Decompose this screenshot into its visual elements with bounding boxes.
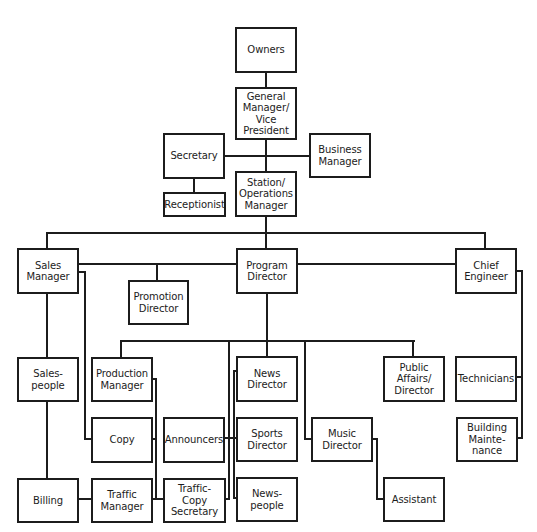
connector-sales-copy-v (84, 271, 86, 440)
node-station-operations-manager: Station/ Operations Manager (235, 171, 297, 217)
connector-lower-bus (120, 340, 415, 342)
node-news-director: News Director (236, 356, 298, 402)
connector-production-traffic (152, 498, 163, 500)
node-secretary: Secretary (163, 133, 225, 179)
connector-sales-salespeople (46, 293, 48, 357)
connector-news-newspeople (233, 370, 235, 498)
connector-chief-technicians (517, 376, 523, 378)
connector-program-bus (266, 293, 268, 356)
connector-bus-chief (484, 232, 486, 248)
node-copy: Copy (91, 417, 153, 463)
connector-salespeople-billing (46, 401, 48, 478)
connector-secretary-business (224, 155, 309, 157)
connector-bus-traffic-copy (228, 340, 230, 500)
connector-music-assistant-h (376, 498, 383, 500)
node-sports-director: Sports Director (236, 417, 298, 462)
node-building-maintenance: Building Mainte- nance (456, 417, 518, 462)
org-chart: Owners General Manager/ Vice President S… (0, 0, 537, 532)
connector-bus-production (120, 340, 122, 357)
node-general-manager: General Manager/ Vice President (235, 87, 297, 140)
connector-secretary-receptionist (193, 178, 195, 192)
connector-bus-public-affairs (412, 340, 414, 356)
node-sales-manager: Sales Manager (17, 248, 79, 294)
connector-program-chief (297, 263, 455, 265)
connector-top-bus (46, 232, 486, 234)
connector-billing-traffic (78, 498, 91, 500)
connector-owners-gm (265, 72, 267, 87)
connector-music-h (304, 438, 311, 440)
node-music-director: Music Director (311, 417, 373, 462)
node-assistant: Assistant (383, 477, 445, 522)
node-promotion-director: Promotion Director (128, 280, 189, 325)
node-chief-engineer: Chief Engineer (455, 248, 517, 294)
connector-sales-copy-h (84, 438, 91, 440)
connector-music-assistant-v (376, 438, 378, 500)
node-owners: Owners (235, 27, 297, 73)
node-traffic-manager: Traffic Manager (91, 478, 153, 523)
connector-bus-sales (46, 232, 48, 248)
node-production-manager: Production Manager (91, 357, 153, 402)
connector-chief-v (521, 270, 523, 439)
node-receptionist: Receptionist (163, 192, 226, 217)
node-newspeople: News- people (236, 477, 298, 522)
node-public-affairs-director: Public Affairs/ Director (383, 356, 445, 402)
node-announcers: Announcers (163, 417, 225, 463)
node-business-manager: Business Manager (309, 133, 371, 178)
node-technicians: Technicians (455, 356, 517, 402)
connector-announcers-sports (224, 437, 236, 439)
connector-promotion (156, 263, 158, 280)
node-program-director: Program Director (236, 248, 298, 294)
node-salespeople: Sales- people (17, 357, 79, 402)
node-billing: Billing (17, 478, 79, 523)
connector-bus-music (304, 340, 306, 440)
node-traffic-copy-secretary: Traffic-Copy Secretary (163, 478, 226, 523)
